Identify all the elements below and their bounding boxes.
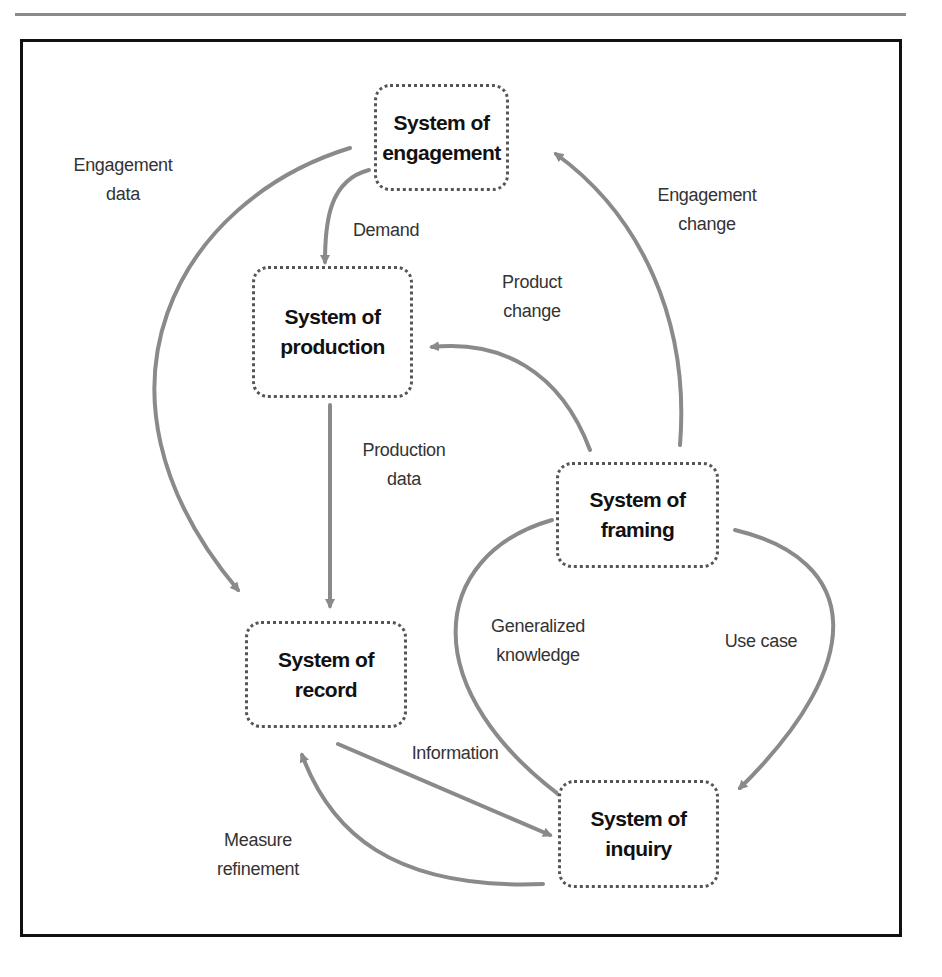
- node-system-of-production: System of production: [252, 266, 413, 398]
- node-label-line1: System of: [278, 645, 374, 675]
- label-use-case: Use case: [716, 627, 806, 656]
- label-line1: Engagement: [68, 151, 178, 180]
- label-line1: Production: [352, 436, 456, 465]
- node-label-line1: System of: [590, 485, 686, 515]
- label-line1: Use case: [716, 627, 806, 656]
- node-label-line1: System of: [591, 804, 687, 834]
- label-line2: change: [652, 210, 762, 239]
- label-line1: Demand: [346, 216, 426, 245]
- label-measure-refinement: Measure refinement: [206, 826, 310, 884]
- node-system-of-framing: System of framing: [556, 462, 719, 568]
- node-label-line1: System of: [285, 302, 381, 332]
- label-line2: refinement: [206, 855, 310, 884]
- label-line1: Product: [492, 268, 572, 297]
- node-label-line2: production: [280, 332, 385, 362]
- label-line1: Generalized: [486, 612, 590, 641]
- label-line2: data: [352, 465, 456, 494]
- node-system-of-engagement: System of engagement: [374, 84, 509, 191]
- node-system-of-inquiry: System of inquiry: [558, 780, 719, 888]
- label-demand: Demand: [346, 216, 426, 245]
- node-label-line2: engagement: [382, 138, 501, 168]
- label-line1: Measure: [206, 826, 310, 855]
- label-engagement-change: Engagement change: [652, 181, 762, 239]
- edge-product-change: [432, 346, 590, 450]
- node-label-line2: inquiry: [605, 834, 672, 864]
- node-label-line1: System of: [394, 108, 490, 138]
- label-generalized-knowledge: Generalized knowledge: [486, 612, 590, 670]
- node-label-line2: framing: [601, 515, 675, 545]
- label-line2: change: [492, 297, 572, 326]
- label-line2: knowledge: [486, 641, 590, 670]
- label-line2: data: [68, 180, 178, 209]
- edge-measure-refinement: [302, 755, 543, 884]
- label-product-change: Product change: [492, 268, 572, 326]
- label-line1: Engagement: [652, 181, 762, 210]
- label-information: Information: [400, 739, 510, 768]
- label-engagement-data: Engagement data: [68, 151, 178, 209]
- label-line1: Information: [400, 739, 510, 768]
- node-label-line2: record: [295, 675, 357, 705]
- node-system-of-record: System of record: [245, 621, 407, 728]
- edge-use-case: [735, 530, 833, 788]
- label-production-data: Production data: [352, 436, 456, 494]
